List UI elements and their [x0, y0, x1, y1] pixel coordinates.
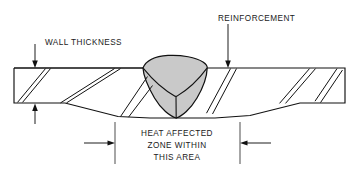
wall-thickness-down-arrow-icon	[32, 61, 38, 69]
haz-hatch-right-3b	[315, 69, 337, 102]
haz-hatch-right-1b	[213, 69, 237, 114]
reinforcement-label: REINFORCEMENT	[218, 14, 295, 23]
reinforcement-down-arrow-icon	[225, 61, 231, 69]
weld-diagram-canvas: WALL THICKNESS REINFORCEMENT HEAT AFFECT…	[0, 0, 356, 169]
haz-hatch-right-1a	[207, 69, 231, 114]
wall-thickness-up-arrow-icon	[32, 104, 38, 112]
haz-hatch-right-2b	[286, 69, 316, 104]
haz-hatch-right-2a	[280, 69, 310, 104]
weld-bead-nugget	[143, 55, 207, 118]
haz-hatch-left-3b	[129, 86, 153, 118]
weld-cross-section-diagram: WALL THICKNESS REINFORCEMENT HEAT AFFECT…	[0, 0, 356, 169]
haz-hatch-left-1a	[18, 69, 46, 103]
haz-hatch-left-2a	[61, 69, 115, 103]
haz-label-line-2: ZONE WITHIN	[147, 141, 206, 150]
haz-hatch-left-2b	[67, 69, 121, 103]
haz-hatch-right-3a	[321, 70, 343, 103]
wall-thickness-label: WALL THICKNESS	[45, 38, 122, 47]
haz-left-arrow-icon	[108, 140, 116, 145]
haz-label-line-3: THIS AREA	[154, 153, 201, 162]
haz-label-line-1: HEAT AFFECTED	[141, 129, 213, 138]
haz-right-arrow-icon	[240, 140, 248, 145]
haz-hatch-left-1b	[23, 69, 51, 103]
